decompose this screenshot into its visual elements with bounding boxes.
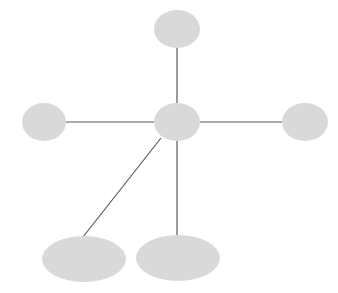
- node-right: [282, 103, 328, 141]
- node-shape: [136, 235, 220, 281]
- edge-center-to-bottom-left: [83, 138, 161, 237]
- nodes-layer: [22, 10, 328, 282]
- node-left: [22, 103, 66, 141]
- edges-layer: [66, 48, 282, 237]
- node-center: [154, 103, 200, 141]
- node-bottom-right: [136, 235, 220, 281]
- node-shape: [22, 103, 66, 141]
- node-shape: [154, 103, 200, 141]
- node-bottom-left: [42, 236, 126, 282]
- node-top: [154, 10, 200, 48]
- node-shape: [42, 236, 126, 282]
- node-shape: [282, 103, 328, 141]
- network-diagram: [0, 0, 338, 293]
- node-shape: [154, 10, 200, 48]
- diagram-canvas: [0, 0, 338, 293]
